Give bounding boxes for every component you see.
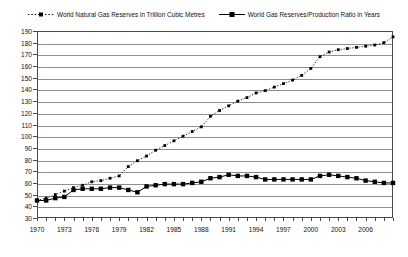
x-axis-tick-label: 1970: [30, 226, 45, 233]
data-point-marker: [327, 173, 331, 177]
data-point-marker: [218, 109, 221, 112]
data-point-marker: [272, 177, 276, 181]
legend-entry-gas-reserves: World Natural Gas Reserves in Trillion C…: [28, 11, 205, 18]
data-point-marker: [209, 115, 212, 118]
data-point-marker: [346, 47, 349, 50]
x-axis-tick-label: 2003: [331, 226, 346, 233]
x-axis: 1970197319761979198219851988199119941997…: [0, 218, 408, 248]
data-point-marker: [190, 181, 194, 185]
data-point-marker: [391, 181, 395, 185]
solid-marker-key-icon: [219, 11, 245, 18]
x-axis-tick-mark: [201, 218, 202, 221]
x-axis-tick-mark: [283, 218, 284, 221]
data-point-marker: [246, 96, 249, 99]
data-point-marker: [363, 178, 367, 182]
x-axis-tick-label: 1973: [57, 226, 72, 233]
x-axis-tick-mark: [55, 218, 56, 221]
data-point-marker: [281, 177, 285, 181]
data-point-marker: [109, 177, 112, 180]
data-point-marker: [354, 176, 358, 180]
data-point-marker: [273, 86, 276, 89]
x-axis-tick-label: 1994: [249, 226, 264, 233]
x-axis-tick-mark: [101, 218, 102, 221]
data-point-marker: [144, 184, 148, 188]
x-axis-tick-mark: [64, 218, 65, 221]
x-axis-tick-mark: [156, 218, 157, 221]
data-point-marker: [336, 174, 340, 178]
data-point-marker: [319, 55, 322, 58]
data-point-marker: [255, 92, 258, 95]
x-axis-tick-mark: [274, 218, 275, 221]
data-point-marker: [44, 198, 48, 202]
chart-legend: World Natural Gas Reserves in Trillion C…: [0, 8, 408, 21]
x-axis-tick-label: 1997: [276, 226, 291, 233]
data-point-marker: [127, 165, 130, 168]
x-axis-tick-mark: [229, 218, 230, 221]
x-axis-tick-mark: [183, 218, 184, 221]
data-point-marker: [80, 187, 84, 191]
data-point-marker: [318, 174, 322, 178]
data-point-marker: [328, 51, 331, 54]
y-axis-tick-label: 70: [25, 168, 32, 175]
data-point-marker: [264, 89, 267, 92]
x-axis-tick-label: 1985: [167, 226, 182, 233]
y-axis-tick-label: 80: [25, 156, 32, 163]
data-point-marker: [135, 190, 139, 194]
x-axis-tick-mark: [119, 218, 120, 221]
x-axis-tick-mark: [92, 218, 93, 221]
data-point-marker: [227, 104, 230, 107]
data-point-marker: [337, 48, 340, 51]
data-point-marker: [355, 46, 358, 49]
data-point-marker: [62, 195, 66, 199]
x-axis-tick-mark: [165, 218, 166, 221]
data-point-marker: [136, 159, 139, 162]
data-point-marker: [382, 41, 385, 44]
data-point-marker: [290, 177, 294, 181]
data-point-marker: [263, 177, 267, 181]
x-axis-tick-mark: [37, 218, 38, 221]
x-axis-tick-label: 1979: [112, 226, 127, 233]
data-point-marker: [282, 82, 285, 85]
data-point-marker: [90, 187, 94, 191]
data-point-marker: [245, 174, 249, 178]
data-point-marker: [126, 188, 130, 192]
data-point-marker: [373, 180, 377, 184]
data-point-marker: [100, 179, 103, 182]
x-axis-tick-mark: [375, 218, 376, 221]
y-axis-tick-label: 120: [21, 109, 32, 116]
data-point-marker: [309, 177, 313, 181]
data-point-marker: [373, 44, 376, 47]
x-axis-tick-mark: [74, 218, 75, 221]
x-axis-tick-mark: [247, 218, 248, 221]
dotted-marker-key-icon: [28, 11, 54, 18]
data-point-marker: [53, 196, 57, 200]
data-point-marker: [236, 174, 240, 178]
data-point-marker: [309, 67, 312, 70]
data-point-marker: [254, 175, 258, 179]
x-axis-tick-mark: [338, 218, 339, 221]
data-point-marker: [99, 187, 103, 191]
legend-label-reserves-production-ratio: World Gas Reserves/Production Ratio in Y…: [248, 11, 380, 18]
x-axis-tick-label: 1982: [139, 226, 154, 233]
data-point-marker: [108, 185, 112, 189]
y-axis-tick-label: 130: [21, 98, 32, 105]
data-point-marker: [145, 155, 148, 158]
x-axis-tick-mark: [293, 218, 294, 221]
chart-figure: World Natural Gas Reserves in Trillion C…: [0, 0, 408, 257]
data-point-marker: [71, 188, 75, 192]
data-point-marker: [382, 181, 386, 185]
data-point-marker: [236, 100, 239, 103]
data-point-marker: [117, 185, 121, 189]
data-point-marker: [300, 177, 304, 181]
x-axis-tick-mark: [110, 218, 111, 221]
x-axis-tick-mark: [83, 218, 84, 221]
x-axis-tick-mark: [238, 218, 239, 221]
data-point-marker: [364, 45, 367, 48]
data-point-marker: [345, 175, 349, 179]
data-point-marker: [172, 182, 176, 186]
data-point-marker: [154, 149, 157, 152]
x-axis-tick-mark: [302, 218, 303, 221]
data-point-marker: [200, 125, 203, 128]
data-point-marker: [54, 193, 57, 196]
y-axis-tick-label: 160: [21, 63, 32, 70]
